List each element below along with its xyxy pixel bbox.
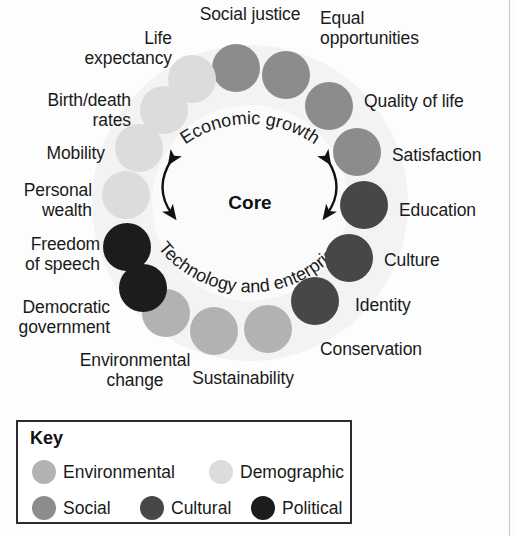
legend-swatch-demographic-icon (209, 460, 233, 484)
wheel-node-identity (291, 277, 339, 325)
wheel-node-culture (325, 234, 373, 282)
wheel-node-freedom-of-speech (103, 223, 151, 271)
wheel-label-life-expectancy: Life expectancy (84, 28, 172, 68)
legend-item-political: Political (251, 491, 342, 525)
wheel-label-democratic-government: Democratic government (19, 297, 110, 337)
arrow-left-double (163, 159, 173, 214)
legend-swatch-social-icon (32, 496, 56, 520)
legend-swatch-political-icon (251, 496, 275, 520)
wheel-node-education (340, 181, 388, 229)
core-label: Core (228, 192, 271, 214)
wheel-node-democratic-government (119, 264, 167, 312)
legend-label-cultural: Cultural (171, 498, 231, 519)
legend-swatch-cultural-icon (140, 496, 164, 520)
wheel-node-life-expectancy (168, 55, 216, 103)
legend-item-cultural: Cultural (140, 491, 231, 525)
legend-item-demographic: Demographic (209, 455, 344, 489)
wheel-label-satisfaction: Satisfaction (392, 145, 481, 165)
wheel-label-environmental-change: Environmental change (80, 350, 191, 390)
wheel-node-conservation (244, 305, 292, 353)
legend-title: Key (30, 428, 63, 449)
core-wheel-diagram: Economic growth Technology and enterpris… (0, 0, 516, 410)
wheel-label-culture: Culture (384, 250, 440, 270)
arc-label-economic-growth: Economic growth (177, 108, 324, 148)
wheel-node-quality-of-life (305, 82, 353, 130)
wheel-label-equal-opportunities: Equal opportunities (320, 8, 419, 48)
wheel-node-satisfaction (333, 128, 381, 176)
wheel-node-personal-wealth (102, 171, 150, 219)
legend-swatch-environmental-icon (32, 460, 56, 484)
wheel-node-social-justice (212, 44, 260, 92)
legend-label-environmental: Environmental (63, 462, 175, 483)
wheel-label-mobility: Mobility (46, 143, 105, 163)
legend-label-political: Political (282, 498, 342, 519)
legend-item-environmental: Environmental (32, 455, 175, 489)
arrow-right-double (327, 159, 337, 214)
legend-row-1: EnvironmentalDemographic (18, 455, 350, 489)
legend-row-2: SocialCulturalPolitical (18, 491, 350, 525)
wheel-label-social-justice: Social justice (200, 4, 301, 24)
wheel-node-sustainability (190, 307, 238, 355)
wheel-label-sustainability: Sustainability (192, 368, 294, 388)
legend-label-social: Social (63, 498, 111, 519)
legend-item-social: Social (32, 491, 111, 525)
wheel-label-education: Education (399, 200, 476, 220)
wheel-label-identity: Identity (355, 295, 411, 315)
wheel-label-conservation: Conservation (320, 339, 422, 359)
page-root: Economic growth Technology and enterpris… (0, 0, 516, 536)
wheel-label-birth-death-rates: Birth/death rates (47, 90, 131, 130)
wheel-label-personal-wealth: Personal wealth (24, 180, 92, 220)
wheel-label-freedom-of-speech: Freedom of speech (25, 234, 100, 274)
legend-box: Key EnvironmentalDemographic SocialCultu… (16, 420, 352, 524)
wheel-label-quality-of-life: Quality of life (364, 91, 464, 111)
legend-label-demographic: Demographic (240, 462, 344, 483)
wheel-node-equal-opportunities (262, 51, 310, 99)
